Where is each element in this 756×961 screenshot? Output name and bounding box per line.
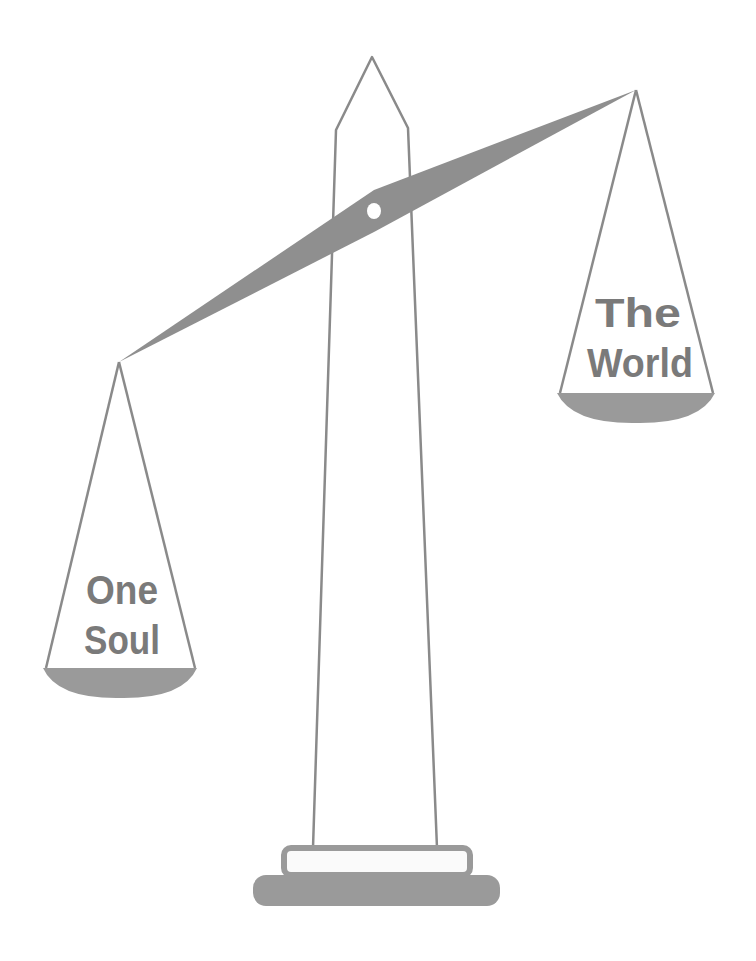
right-pan-label-line2: World (587, 341, 693, 385)
left-pan-bowl (43, 668, 197, 698)
left-pan-label-line1: One (86, 568, 158, 612)
right-pan-label-line1: The (595, 291, 681, 335)
pivot-hole (367, 203, 381, 219)
right-pan-bowl (557, 393, 715, 423)
left-pan-label-line2: Soul (84, 618, 160, 662)
scale-illustration: The World One Soul (0, 0, 756, 961)
obelisk-plinth (284, 848, 470, 875)
obelisk-base-slab (253, 875, 500, 906)
